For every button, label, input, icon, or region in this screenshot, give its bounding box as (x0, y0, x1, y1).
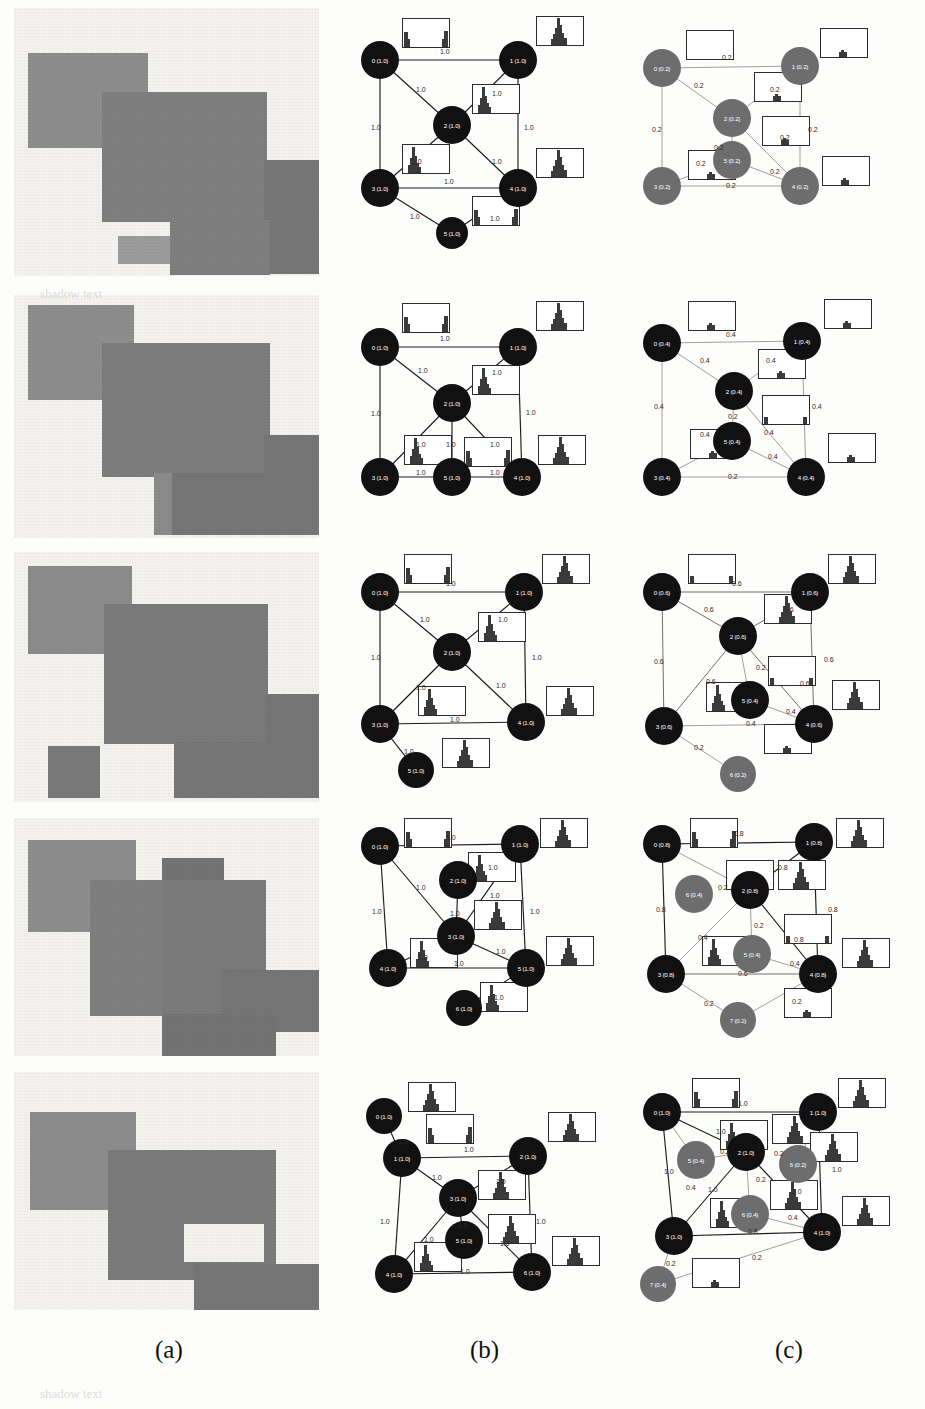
histogram-bar (567, 1259, 569, 1265)
graph-node[interactable]: 2 (0.4) (715, 372, 753, 410)
graph-node[interactable]: 2 (1.0) (433, 106, 471, 144)
graph-node[interactable]: 5 (1.0) (507, 949, 545, 987)
edge-weight-label: 0.4 (790, 960, 800, 967)
graph-node[interactable]: 0 (0.2) (643, 49, 681, 87)
graph-node[interactable]: 0 (1.0) (361, 41, 399, 79)
graph-node[interactable]: 5 (0.4) (677, 1141, 715, 1179)
graph-node[interactable]: 4 (0.2) (781, 167, 819, 205)
histogram-thumbnail (810, 1132, 858, 1162)
histogram-bar (788, 748, 791, 753)
graph-node-label: 0 (1.0) (654, 1109, 670, 1116)
graph-node[interactable]: 1 (0.2) (781, 47, 819, 85)
graph-node[interactable]: 1 (0.6) (791, 573, 829, 611)
graph-node[interactable]: 4 (0.8) (799, 955, 837, 993)
histogram-bar (408, 324, 411, 332)
graph-node[interactable]: 4 (0.4) (787, 458, 825, 496)
graph-node[interactable]: 4 (1.0) (375, 1255, 413, 1293)
histogram-bars (410, 1083, 454, 1111)
cell-column-b: 0 (1.0)1 (1.0)2 (1.0)3 (1.0)4 (1.0)5 (1.… (340, 552, 602, 806)
graph-node-label: 0 (1.0) (372, 344, 388, 351)
graph-node[interactable]: 3 (1.0) (437, 917, 475, 955)
edge-weight-label: 0.4 (812, 403, 822, 410)
graph-node[interactable]: 1 (1.0) (499, 328, 537, 366)
graph-node-label: 3 (1.0) (666, 1233, 682, 1240)
graph-node[interactable]: 5 (1.0) (436, 217, 468, 249)
graph-node[interactable]: 5 (0.4) (733, 935, 771, 973)
edge-weight-label: 1.0 (371, 410, 381, 417)
histogram-thumbnail (832, 680, 880, 710)
edge-weight-label: 1.0 (492, 90, 502, 97)
graph-node[interactable]: 3 (0.8) (647, 955, 685, 993)
graph-node[interactable]: 2 (0.8) (731, 871, 769, 909)
graph-node[interactable]: 4 (1.0) (507, 703, 545, 741)
graph-node[interactable]: 7 (0.4) (640, 1266, 676, 1302)
histogram-bar (690, 576, 694, 583)
graph-node[interactable]: 6 (0.2) (779, 1145, 817, 1183)
graph-node[interactable]: 3 (0.6) (645, 707, 683, 745)
graph-node[interactable]: 3 (1.0) (439, 1179, 477, 1217)
graph-node[interactable]: 5 (1.0) (433, 458, 471, 496)
graph-node[interactable]: 4 (1.0) (369, 949, 407, 987)
graph-node[interactable]: 2 (1.0) (509, 1137, 547, 1175)
edge-weight-label: 1.0 (490, 469, 500, 476)
graph-node[interactable]: 3 (1.0) (361, 458, 399, 496)
edge-weight-label: 0.2 (774, 1150, 784, 1157)
graph-node[interactable]: 0 (1.0) (361, 328, 399, 366)
graph-node[interactable]: 6 (1.0) (446, 990, 482, 1026)
graph-node-label: 1 (1.0) (510, 344, 526, 351)
graph-node-label: 4 (1.0) (814, 1229, 830, 1236)
edge-weight-label: 0.8 (748, 1228, 758, 1235)
graph-node-label: 6 (0.2) (790, 1161, 806, 1168)
graph-node[interactable]: 1 (0.4) (783, 322, 821, 360)
histogram-bar (408, 39, 411, 47)
graph-node[interactable]: 2 (1.0) (727, 1133, 765, 1171)
graph-node[interactable]: 3 (1.0) (361, 705, 399, 743)
graph-node[interactable]: 2 (0.2) (713, 99, 751, 137)
graph-node[interactable]: 6 (0.2) (720, 756, 756, 792)
edge-weight-label: 1.0 (404, 748, 414, 755)
graph-node[interactable]: 0 (1.0) (643, 1093, 681, 1131)
image-region (162, 1014, 276, 1056)
graph-node[interactable]: 0 (1.0) (366, 1098, 402, 1134)
edge-weight-label: 1.0 (496, 1178, 506, 1185)
graph-node[interactable]: 0 (1.0) (361, 573, 399, 611)
graph-node[interactable]: 3 (1.0) (361, 169, 399, 207)
graph-node[interactable]: 2 (1.0) (433, 384, 471, 422)
graph-node[interactable]: 2 (1.0) (433, 633, 471, 671)
graph-node[interactable]: 0 (0.4) (643, 324, 681, 362)
graph-node[interactable]: 4 (1.0) (803, 1213, 841, 1251)
graph-node[interactable]: 4 (0.6) (795, 705, 833, 743)
graph-node-label: 5 (1.0) (444, 230, 460, 237)
graph-node[interactable]: 2 (0.6) (719, 617, 757, 655)
graph-node[interactable]: 5 (0.4) (731, 681, 769, 719)
graph-node[interactable]: 7 (0.2) (720, 1002, 756, 1038)
graph-node[interactable]: 4 (1.0) (503, 458, 541, 496)
graph-node[interactable]: 1 (1.0) (505, 573, 543, 611)
graph-node[interactable]: 3 (0.2) (643, 167, 681, 205)
edge-weight-label: 0.4 (686, 1184, 696, 1191)
graph-node[interactable]: 1 (1.0) (501, 825, 539, 863)
histogram-bar (427, 961, 429, 967)
graph-node[interactable]: 3 (0.4) (643, 458, 681, 496)
graph-node[interactable]: 0 (1.0) (361, 827, 399, 865)
graph-node[interactable]: 4 (1.0) (499, 169, 537, 207)
edge-weight-label: 1.0 (524, 124, 534, 131)
graph-node[interactable]: 2 (1.0) (439, 861, 477, 899)
edge-weight-label: 1.0 (380, 1218, 390, 1225)
graph-node-label: 1 (0.6) (802, 589, 818, 596)
graph-node[interactable]: 0 (0.6) (643, 573, 681, 611)
histogram-bar (457, 761, 459, 767)
graph-node[interactable]: 3 (1.0) (655, 1217, 693, 1255)
graph-node[interactable]: 6 (0.4) (675, 875, 713, 913)
graph-node[interactable]: 1 (1.0) (799, 1093, 837, 1131)
graph-node[interactable]: 1 (0.8) (795, 823, 833, 861)
graph-node[interactable]: 0 (0.8) (643, 825, 681, 863)
edge-weight-label: 1.0 (664, 1168, 674, 1175)
histogram-bars (482, 983, 526, 1011)
graph-node[interactable]: 5 (0.4) (713, 422, 751, 460)
scan-artifact-top: shadow text (40, 286, 102, 302)
graph-node[interactable]: 5 (1.0) (398, 752, 434, 788)
edge-weight-label: 1.0 (464, 1146, 474, 1153)
graph-node[interactable]: 1 (1.0) (499, 41, 537, 79)
graph-node[interactable]: 6 (1.0) (513, 1253, 551, 1291)
